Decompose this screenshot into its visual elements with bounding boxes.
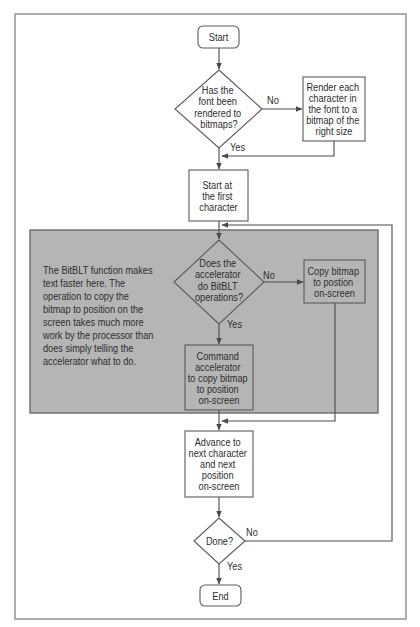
label-line: Has the (202, 84, 234, 96)
label-text: No (263, 269, 275, 281)
edge-label-done-no: No (246, 526, 258, 538)
edge-label-accel-yes: Yes (227, 318, 242, 330)
label-text: Yes (227, 560, 242, 572)
process-start-first-character-label: Start at the first character (199, 179, 238, 213)
edge-label-accel-no: No (263, 269, 275, 281)
label-line: End (212, 590, 229, 602)
start-terminal: Start (198, 26, 239, 48)
label-line: operations? (195, 291, 243, 303)
process-copy-bitmap-label: Copy bitmap to postion on-screen (307, 265, 361, 299)
flowchart: Start Has the font been rendered to bitm… (0, 0, 420, 627)
label-text: No (267, 94, 279, 106)
process-render-characters: Render each character in the font to a b… (303, 77, 365, 141)
label-line: Done? (206, 535, 233, 547)
process-command-accelerator: Command accelerator to copy bitmap to po… (185, 345, 253, 410)
decision-done-label: Done? (206, 535, 233, 547)
edge-label-font-no: No (267, 94, 279, 106)
label-line: character (199, 201, 238, 213)
note-line: screen takes much more (43, 316, 144, 328)
decision-accelerator-bitblt-label: Does the accelerator do BitBLT operation… (195, 257, 243, 303)
start-terminal-label: Start (209, 31, 229, 43)
label-text: No (246, 526, 258, 538)
process-start-first-character: Start at the first character (189, 170, 248, 221)
label-line: on-screen (199, 480, 240, 492)
note-line: does simply telling the (43, 342, 134, 354)
label-line: Does the (199, 257, 236, 269)
note-line: The BitBLT function makes (43, 264, 153, 276)
process-advance: Advance to next character and next posit… (185, 431, 253, 497)
note-line: text faster here. The (43, 277, 125, 289)
label-text: Yes (230, 141, 245, 153)
label-line: accelerator (195, 269, 241, 281)
label-line: right size (316, 125, 353, 137)
label-line: bitmaps? (200, 119, 237, 131)
label-line: Start (209, 31, 229, 43)
note-line: bitmap to position on the (43, 303, 143, 315)
label-line: on-screen (314, 287, 355, 299)
end-terminal: End (200, 585, 241, 606)
note-line: accelerator what to do. (43, 355, 136, 367)
label-line: rendered to (194, 107, 241, 119)
label-text: Yes (227, 318, 242, 330)
end-terminal-label: End (212, 590, 229, 602)
label-line: font been (199, 96, 238, 108)
process-copy-bitmap: Copy bitmap to postion on-screen (304, 260, 365, 303)
label-line: on-screen (199, 394, 240, 406)
edge-label-font-yes: Yes (230, 141, 245, 153)
decision-font-rendered: Has the font been rendered to bitmaps? (175, 70, 262, 148)
edge-label-done-yes: Yes (227, 560, 242, 572)
note-line: operation to copy the (43, 290, 129, 302)
note-line: work by the processor than (42, 329, 153, 341)
decision-done: Done? (194, 518, 245, 564)
